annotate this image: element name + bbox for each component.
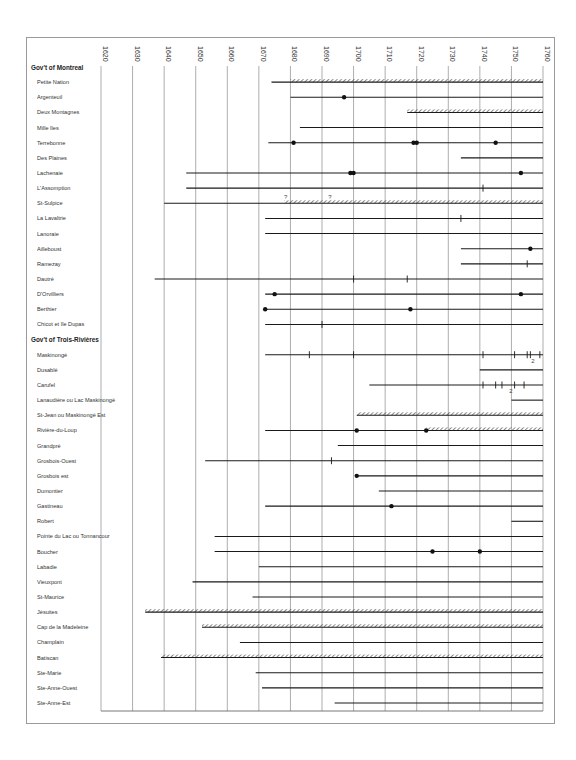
seigneury-label: Chicot et île Dupas xyxy=(37,321,84,327)
seigneury-row: 2 xyxy=(369,382,543,395)
year-tick-label: 1730 xyxy=(449,46,456,62)
seigneury-label: Ste-Marie xyxy=(37,670,61,676)
seigneury-label: St-Sulpice xyxy=(37,200,63,206)
hatched-segment xyxy=(407,109,543,112)
seigneury-label: Dautré xyxy=(37,276,54,282)
event-dot xyxy=(478,549,482,553)
seigneury-row xyxy=(202,624,543,627)
year-tick-label: 1720 xyxy=(418,46,425,62)
seigneury-label: La Lavaltrie xyxy=(37,215,66,221)
row-labels: Gov't of MontrealPetite NationArgenteuil… xyxy=(31,64,115,707)
hatched-segment xyxy=(284,200,543,203)
seigneury-row xyxy=(155,276,543,283)
seigneury-row: 2 xyxy=(265,351,543,364)
year-tick-label: 1760 xyxy=(544,46,551,62)
seigneury-row xyxy=(265,215,543,222)
seigneury-label: St-Jean ou Maskinongé Est xyxy=(37,412,106,418)
seigneury-row xyxy=(145,609,543,612)
seigneury-row xyxy=(265,292,543,296)
seigneury-row xyxy=(205,457,543,464)
year-tick-label: 1690 xyxy=(323,46,330,62)
seigneury-label: Mille Iles xyxy=(37,125,59,131)
hatched-segment xyxy=(202,624,543,627)
annotation: 2 xyxy=(509,388,513,394)
year-tick-label: 1650 xyxy=(197,46,204,62)
grid xyxy=(101,66,543,711)
seigneury-label: Carufel xyxy=(37,382,55,388)
seigneury-label: Dusablé xyxy=(37,367,58,373)
event-dot xyxy=(342,95,346,99)
event-dot xyxy=(519,292,523,296)
seigneury-label: L'Assomption xyxy=(37,185,70,191)
year-tick-label: 1630 xyxy=(134,46,141,62)
seigneury-label: Grosbois est xyxy=(37,473,69,479)
seigneury-label: Argenteuil xyxy=(37,94,62,100)
event-dot xyxy=(355,474,359,478)
seigneury-label: Jésuites xyxy=(37,609,58,615)
seigneury-label: Ramezay xyxy=(37,261,61,267)
seigneury-row xyxy=(271,79,543,82)
seigneury-label: Robert xyxy=(37,518,54,524)
year-tick-label: 1750 xyxy=(512,46,519,62)
event-dot xyxy=(351,171,355,175)
year-tick-label: 1660 xyxy=(228,46,235,62)
seigneury-row xyxy=(265,504,543,508)
hatched-segment xyxy=(161,655,543,658)
year-tick-label: 1740 xyxy=(481,46,488,62)
event-dot xyxy=(263,307,267,311)
event-dot xyxy=(272,292,276,296)
seigneury-row xyxy=(407,109,543,112)
seigneury-label: Pointe du Lac ou Tonnancour xyxy=(37,533,110,539)
x-axis-year-labels: 1620163016401650166016701680169017001710… xyxy=(102,46,551,62)
seigneury-row xyxy=(186,171,543,175)
event-dot xyxy=(528,247,532,251)
year-tick-label: 1640 xyxy=(165,46,172,62)
event-dot xyxy=(415,141,419,145)
seigneury-label: Dumontier xyxy=(37,488,63,494)
group-heading: Gov't of Trois-Rivières xyxy=(31,336,99,343)
event-dot xyxy=(389,504,393,508)
year-tick-label: 1670 xyxy=(260,46,267,62)
seigneury-row xyxy=(263,307,543,311)
seigneury-label: Terrebonne xyxy=(37,140,65,146)
seigneury-label: D'Orvilliers xyxy=(37,291,64,297)
event-dot xyxy=(493,141,497,145)
year-tick-label: 1700 xyxy=(355,46,362,62)
seigneury-label: Lanaudière ou Lac Maskinongé xyxy=(37,397,115,403)
seigneury-row xyxy=(161,655,543,658)
seigneury-label: Cap de la Madeleine xyxy=(37,624,88,630)
event-dot xyxy=(424,428,428,432)
hatched-segment xyxy=(426,427,543,430)
seigneury-label: Berthier xyxy=(37,306,57,312)
seigneury-label: Grandpré xyxy=(37,443,61,449)
seigneury-label: Lanoraie xyxy=(37,231,59,237)
seigneury-label: Rivière-du-Loup xyxy=(37,427,77,433)
seigneury-label: Labadie xyxy=(37,564,57,570)
seigneury-row xyxy=(357,412,543,415)
seigneury-label: Ste-Anne-Est xyxy=(37,700,71,706)
seigneury-label: Deux Montagnes xyxy=(37,109,79,115)
seigneury-label: Batiscan xyxy=(37,655,58,661)
event-dot xyxy=(519,171,523,175)
event-dot xyxy=(291,141,295,145)
event-dot xyxy=(408,307,412,311)
seigneury-row xyxy=(265,321,543,328)
hatched-segment xyxy=(357,412,543,415)
seigneury-label: Champlain xyxy=(37,639,64,645)
seigneury-label: Lachenaie xyxy=(37,170,63,176)
seigneury-label: Ailleboust xyxy=(37,246,62,252)
seigneury-row xyxy=(215,549,543,553)
seigneury-row xyxy=(461,247,543,251)
seigneury-label: Maskinongé xyxy=(37,352,67,358)
seigneury-label: Ste-Anne-Ouest xyxy=(37,685,78,691)
annotation: 2 xyxy=(531,358,535,364)
year-tick-label: 1710 xyxy=(386,46,393,62)
year-tick-label: 1620 xyxy=(102,46,109,62)
seigneury-row xyxy=(268,141,543,145)
seigneury-label: Vieuxpont xyxy=(37,579,62,585)
seigneury-row xyxy=(355,474,543,478)
timeline-series: ??22 xyxy=(145,79,543,703)
event-dot xyxy=(355,428,359,432)
annotation: ? xyxy=(284,194,288,200)
seigneury-label: Boucher xyxy=(37,549,58,555)
